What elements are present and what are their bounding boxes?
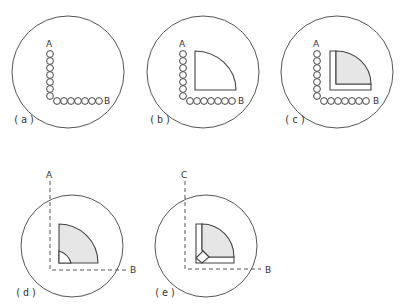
label-top: A bbox=[46, 170, 53, 180]
label-right: B bbox=[104, 96, 110, 106]
label-right: B bbox=[373, 96, 379, 106]
panel-caption: (d) bbox=[15, 287, 39, 298]
panel-b: A B (b) bbox=[147, 16, 259, 128]
panel-caption: (c) bbox=[284, 114, 308, 125]
label-top: C bbox=[181, 170, 187, 180]
bead-chain-horizontal bbox=[187, 98, 236, 105]
label-right: B bbox=[265, 265, 271, 275]
label-right: B bbox=[238, 96, 244, 106]
outer-circle bbox=[12, 16, 124, 128]
shaded-quarter-round bbox=[336, 51, 371, 84]
label-top: A bbox=[46, 39, 53, 49]
bead-chain-horizontal bbox=[321, 98, 370, 105]
label-right: B bbox=[130, 265, 136, 275]
panel-caption: (b) bbox=[149, 114, 173, 125]
panel-c: A B (c) bbox=[281, 16, 393, 128]
panel-d: A B (d) bbox=[15, 170, 136, 298]
shaded-quarter-round bbox=[202, 224, 234, 257]
figure-canvas: A B (a) A B (b) bbox=[0, 0, 408, 308]
panel-a: A B (a) bbox=[12, 16, 124, 128]
bead-chain-vertical bbox=[314, 51, 321, 100]
bead-chain-vertical bbox=[47, 51, 54, 100]
label-top: A bbox=[179, 39, 186, 49]
label-top: A bbox=[313, 39, 320, 49]
quarter-round-insert bbox=[195, 51, 236, 90]
bead-chain-vertical bbox=[180, 51, 187, 100]
panel-caption: (e) bbox=[154, 287, 178, 298]
bead-chain-horizontal bbox=[54, 98, 103, 105]
panel-caption: (a) bbox=[13, 114, 37, 125]
panel-e: C B (e) bbox=[154, 170, 271, 298]
